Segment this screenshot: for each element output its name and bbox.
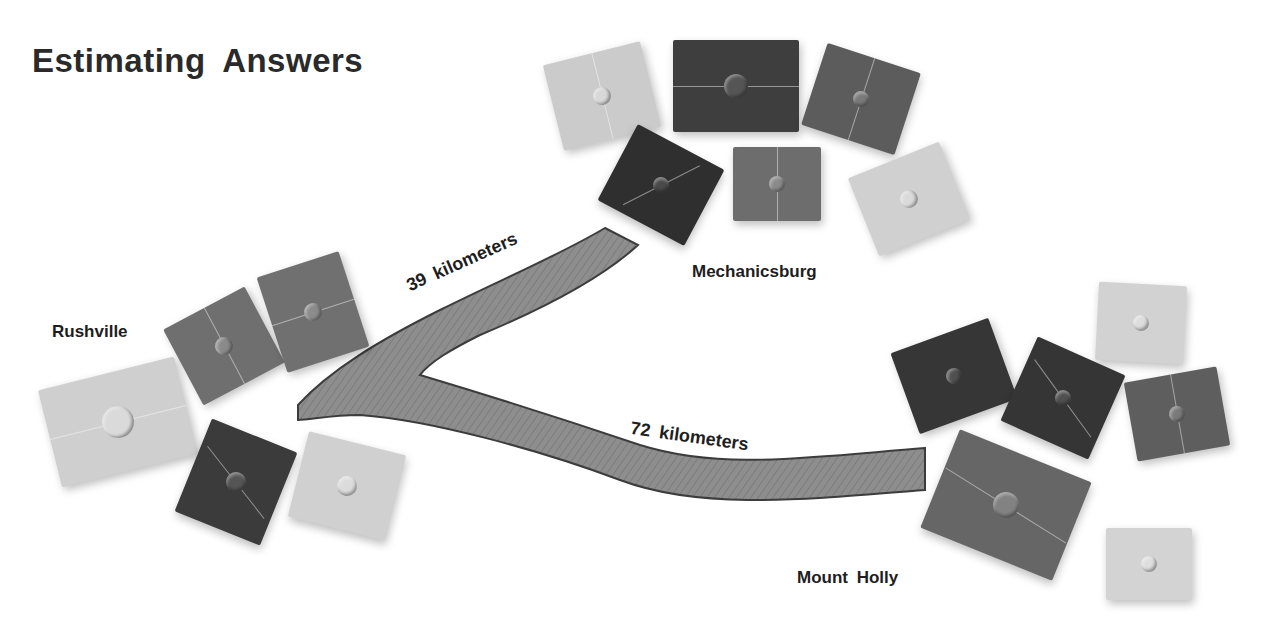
city-label-mount-holly: Mount Holly — [797, 568, 898, 588]
city-label-mechanicsburg: Mechanicsburg — [692, 262, 817, 282]
city-label-rushville: Rushville — [52, 322, 128, 342]
tile-mid — [733, 147, 821, 221]
tile-dark — [673, 40, 799, 132]
tile-mid — [1124, 366, 1230, 461]
tile-light — [1106, 528, 1192, 600]
tile-light — [1095, 282, 1187, 364]
